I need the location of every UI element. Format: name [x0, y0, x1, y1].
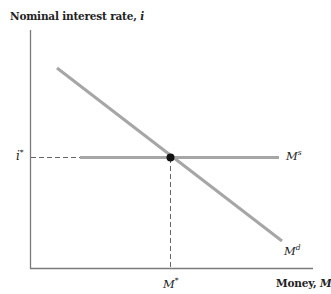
m-symbol: M: [163, 277, 175, 291]
y-axis-variable: i: [140, 10, 144, 22]
equilibrium-point: [167, 154, 175, 162]
d-superscript: d: [296, 243, 301, 252]
x-axis-label-text: Money,: [276, 277, 320, 289]
x-axis-title: Money, M: [276, 277, 331, 289]
y-axis-label-text: Nominal interest rate,: [10, 10, 140, 22]
star-superscript: *: [20, 148, 24, 157]
equilibrium-quantity-label: M*: [163, 276, 179, 291]
money-supply-label: Ms: [286, 148, 302, 163]
money-demand-label: Md: [284, 243, 301, 258]
y-axis-title: Nominal interest rate, i: [10, 10, 144, 22]
x-axis-variable: M: [320, 277, 331, 289]
s-superscript: s: [298, 148, 302, 157]
star-superscript: *: [175, 276, 179, 285]
m-symbol: M: [286, 149, 298, 163]
equilibrium-rate-label: i*: [16, 148, 24, 163]
m-symbol: M: [284, 244, 296, 258]
